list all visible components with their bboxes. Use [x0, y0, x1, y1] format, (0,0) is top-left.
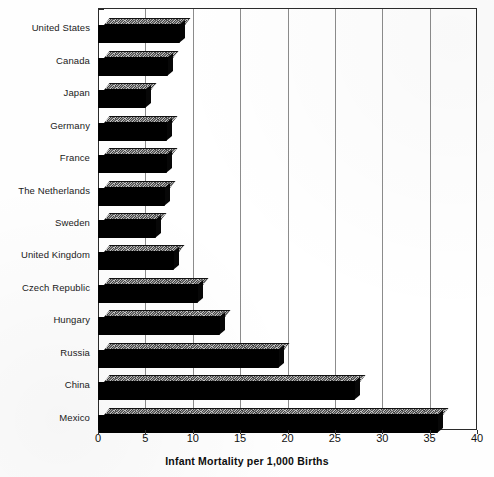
gridline: [288, 9, 289, 429]
category-label: France: [0, 152, 90, 163]
gridline: [145, 9, 146, 429]
category-label: Czech Republic: [0, 281, 90, 292]
category-axis-labels: United StatesCanadaJapanGermanyFranceThe…: [0, 8, 93, 430]
category-label: United States: [0, 22, 90, 33]
gridline: [193, 9, 194, 429]
category-label: Russia: [0, 346, 90, 357]
x-axis-tick-label: 20: [281, 432, 293, 444]
category-axis-tick: [99, 236, 104, 237]
gridline: [335, 9, 336, 429]
category-label: Hungary: [0, 314, 90, 325]
x-axis-tick-label: 30: [376, 432, 388, 444]
category-label: United Kingdom: [0, 249, 90, 260]
plot-area: [98, 8, 477, 430]
category-axis-tick: [99, 171, 104, 172]
category-axis-tick: [99, 106, 104, 107]
category-axis-tick: [99, 41, 104, 42]
gridline: [240, 9, 241, 429]
category-label: Japan: [0, 87, 90, 98]
x-axis-tick-label: 25: [329, 432, 341, 444]
gridline: [382, 9, 383, 429]
category-axis-tick: [99, 139, 104, 140]
category-label: Canada: [0, 54, 90, 65]
x-axis-tick-label: 5: [142, 432, 148, 444]
category-axis-tick: [99, 269, 104, 270]
category-label: The Netherlands: [0, 184, 90, 195]
category-label: China: [0, 379, 90, 390]
bar-chart-figure: United StatesCanadaJapanGermanyFranceThe…: [0, 0, 494, 477]
category-label: Mexico: [0, 411, 90, 422]
x-axis-tick-label: 35: [424, 432, 436, 444]
category-axis-tick: [99, 9, 104, 10]
category-label: Germany: [0, 119, 90, 130]
gridline: [430, 9, 431, 429]
x-axis-tick-label: 10: [187, 432, 199, 444]
category-label: Sweden: [0, 217, 90, 228]
x-axis-tick-label: 15: [234, 432, 246, 444]
x-axis-tick-labels: 0510152025303540: [0, 432, 494, 450]
x-axis-title: Infant Mortality per 1,000 Births: [0, 455, 494, 467]
category-axis-tick: [99, 334, 104, 335]
category-axis-tick: [99, 204, 104, 205]
x-axis-tick-label: 40: [471, 432, 483, 444]
category-axis-tick: [99, 366, 104, 367]
category-axis-tick: [99, 399, 104, 400]
category-axis-tick: [99, 301, 104, 302]
category-axis-tick: [99, 74, 104, 75]
x-axis-tick-label: 0: [95, 432, 101, 444]
